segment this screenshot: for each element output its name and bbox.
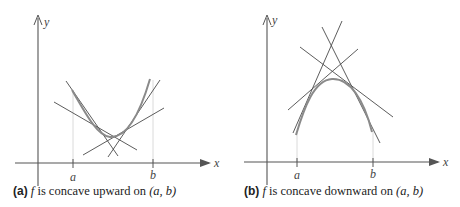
caption-text: is concave upward on [34,184,149,198]
panel-concave-upward: y x a b (a) f is concave upward on (a, b… [0,0,230,207]
y-axis-label: y [43,15,50,29]
x-axis-label: x [442,155,449,169]
caption-a: (a) f is concave upward on (a, b) [13,184,176,199]
tangent-line-2 [288,49,358,110]
tick-label-b: b [370,167,376,181]
tick-label-a: a [70,170,76,184]
caption-text: is concave downward on [266,184,396,198]
caption-tag: (a) [13,184,28,198]
caption-interval: (a, b) [149,184,176,198]
concave-down-graph: y x a b [230,0,460,207]
tangent-line-3 [300,47,393,117]
concave-up-curve [72,79,150,137]
x-axis-label: x [213,156,220,170]
caption-interval: (a, b) [396,184,423,198]
caption-b: (b) f is concave downward on (a, b) [244,184,423,199]
tick-label-a: a [294,168,300,182]
tangent-line-1 [293,21,342,133]
tick-label-b: b [150,168,156,182]
x-axis-arrow-icon [200,159,211,167]
x-axis-arrow-icon [429,158,440,166]
concave-up-graph: y x a b [0,0,230,207]
concave-down-curve [296,79,372,135]
panel-concave-downward: y x a b (b) f is concave downward on (a,… [230,0,460,207]
y-axis-label: y [271,13,278,27]
caption-tag: (b) [244,184,259,198]
